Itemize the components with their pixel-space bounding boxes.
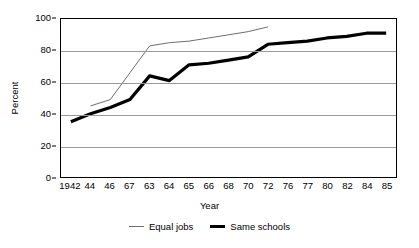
x-tick-label-64: 64 xyxy=(164,181,175,191)
x-tick-label-65: 65 xyxy=(184,181,195,191)
x-axis-title: Year xyxy=(0,200,419,211)
plot-area xyxy=(60,18,397,178)
series-line-equal-jobs xyxy=(91,27,268,106)
series-line-same-schools xyxy=(71,33,386,121)
gridline-40 xyxy=(61,115,396,116)
y-tick-mark-20 xyxy=(52,146,56,147)
x-tick-label-70: 70 xyxy=(243,181,254,191)
legend-item-label: Same schools xyxy=(230,222,290,232)
gridline-60 xyxy=(61,83,396,84)
x-tick-label-77: 77 xyxy=(302,181,313,191)
y-tick-label-20: 20 xyxy=(40,141,51,151)
y-tick-mark-0 xyxy=(52,178,56,179)
series-container xyxy=(61,19,396,177)
y-axis-title: Percent xyxy=(9,82,20,115)
x-tick-label-68: 68 xyxy=(223,181,234,191)
y-tick-label-80: 80 xyxy=(40,45,51,55)
x-tick-label-44: 44 xyxy=(84,181,95,191)
legend-line-swatch-icon xyxy=(129,226,144,227)
y-tick-mark-60 xyxy=(52,82,56,83)
line-chart-figure: 100806040200 Percent 1942444667636465666… xyxy=(0,0,419,248)
x-tick-label-85: 85 xyxy=(382,181,393,191)
x-tick-label-80: 80 xyxy=(322,181,333,191)
x-tick-label-84: 84 xyxy=(362,181,373,191)
legend-item-same-schools[interactable]: Same schools xyxy=(210,222,290,232)
x-tick-label-76: 76 xyxy=(283,181,294,191)
legend-line-swatch-icon xyxy=(210,225,225,228)
y-tick-mark-100 xyxy=(52,18,56,19)
legend-item-equal-jobs[interactable]: Equal jobs xyxy=(129,222,193,232)
y-tick-mark-40 xyxy=(52,114,56,115)
x-tick-label-1942: 1942 xyxy=(59,181,80,191)
legend-item-label: Equal jobs xyxy=(149,222,193,232)
x-axis-tick-labels: 194244466763646566687072767780828485 xyxy=(60,181,397,195)
chart-legend: Equal jobsSame schools xyxy=(0,222,419,232)
gridline-80 xyxy=(61,51,396,52)
x-tick-label-63: 63 xyxy=(144,181,155,191)
y-tick-mark-80 xyxy=(52,50,56,51)
y-tick-label-60: 60 xyxy=(40,77,51,87)
y-tick-label-0: 0 xyxy=(46,173,51,183)
x-tick-label-46: 46 xyxy=(104,181,115,191)
y-tick-label-100: 100 xyxy=(35,13,51,23)
x-tick-label-72: 72 xyxy=(263,181,274,191)
y-tick-label-40: 40 xyxy=(40,109,51,119)
x-tick-label-66: 66 xyxy=(203,181,214,191)
gridline-20 xyxy=(61,147,396,148)
x-tick-label-82: 82 xyxy=(342,181,353,191)
x-tick-label-67: 67 xyxy=(124,181,135,191)
